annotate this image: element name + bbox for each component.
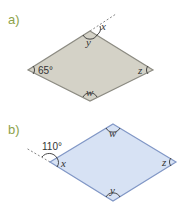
angle-arc-ext-b [42,153,57,158]
angle-z-label-a: z [137,64,143,76]
angle-x-label-a: x [100,20,106,32]
angle-65-label: 65° [38,65,53,76]
angle-z-label-b: z [161,156,167,168]
figure-b: b) 110° x w z y [8,122,176,201]
figure-a: a) 65° y x z w [8,12,153,101]
angle-y-label-a: y [85,36,91,48]
angle-w-label-b: w [109,127,117,139]
rhombus-diagrams: a) 65° y x z w b) 110° x w z y [0,0,179,207]
angle-w-label-a: w [86,86,94,98]
part-label-b: b) [8,122,20,137]
part-label-a: a) [8,12,20,27]
angle-x-label-b: x [60,157,66,169]
angle-arc-ext-a [97,26,100,35]
angle-110-label: 110° [42,141,62,152]
angle-y-label-b: y [109,184,115,196]
